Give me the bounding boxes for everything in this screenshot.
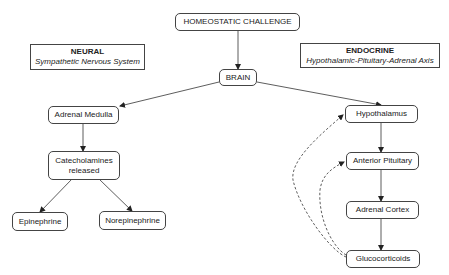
connector-layer [0,0,449,275]
node-adrenal-medulla: Adrenal Medulla [48,106,119,124]
node-adrenal-cortex: Adrenal Cortex [346,201,419,219]
node-brain: BRAIN [219,69,257,86]
label-endocrine-subtitle: Hypothalamic-Pituitary-Adrenal Axis [301,56,439,66]
node-epinephrine: Epinephrine [12,212,68,231]
label-neural-subtitle: Sympathetic Nervous System [31,57,144,67]
arrow-brain-to-adrenal-medulla [120,82,219,106]
node-hypothalamus: Hypothalamus [345,105,418,123]
node-catecholamines: Catecholamines released [48,151,120,180]
node-homeostatic-challenge: HOMEOSTATIC CHALLENGE [175,13,300,31]
label-neural: NEURAL Sympathetic Nervous System [30,44,145,70]
node-norepinephrine: Norepinephrine [99,211,166,230]
arrow-brain-to-hypothalamus [257,82,381,105]
node-glucocorticoids: Glucocorticoids [346,250,420,268]
arrow-catecholamines-to-epinephrine [40,179,72,212]
node-anterior-pituitary: Anterior Pituitary [346,152,419,170]
feedback-glucocorticoids-to-hypothalamus [293,115,346,257]
feedback-glucocorticoids-to-anterior-pituitary [320,162,346,255]
arrow-catecholamines-to-norepinephrine [99,179,132,211]
label-neural-title: NEURAL [31,47,144,57]
label-endocrine-title: ENDOCRINE [301,46,439,56]
label-endocrine: ENDOCRINE Hypothalamic-Pituitary-Adrenal… [300,43,440,68]
